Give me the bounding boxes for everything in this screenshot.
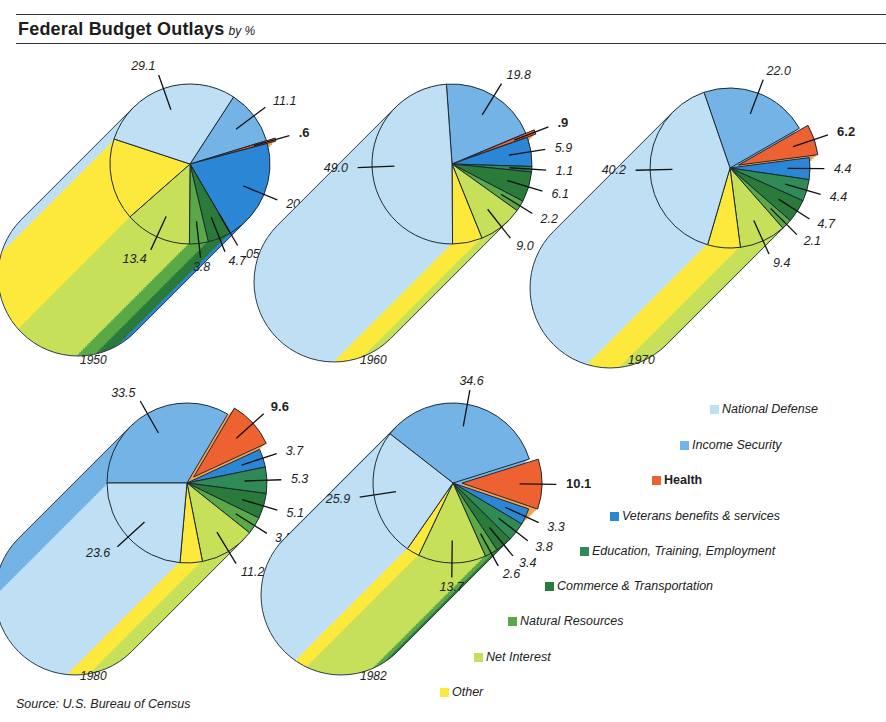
year-label: 1982: [360, 669, 387, 683]
value-label-income-security: 34.6: [459, 374, 483, 388]
legend-item-income-security: Income Security: [680, 438, 782, 452]
value-label-natural-resources: 2.2: [540, 212, 558, 226]
legend-item-health: Health: [652, 473, 702, 487]
legend-label: Commerce & Transportation: [557, 579, 713, 593]
legend-label: Natural Resources: [520, 614, 624, 628]
legend-label: Veterans benefits & services: [622, 509, 780, 523]
legend-label: Other: [452, 685, 483, 699]
legend-swatch: [440, 688, 449, 697]
value-label-national-defense: 40.2: [602, 163, 626, 177]
value-label-veterans-benefits-services: 5.9: [555, 141, 572, 155]
legend-item-net-interest: Net Interest: [474, 650, 551, 664]
pie-chart-1980: 33.59.63.75.35.13.511.223.61980: [0, 386, 308, 683]
value-label-natural-resources: 3.8: [193, 260, 210, 274]
value-label-net-interest: 9.4: [773, 256, 790, 270]
legend-item-national-defense: National Defense: [710, 402, 818, 416]
legend-swatch: [710, 405, 719, 414]
legend-swatch: [474, 653, 483, 662]
year-label: 1970: [628, 353, 655, 367]
year-label: 1980: [80, 669, 107, 683]
legend-swatch: [508, 617, 517, 626]
value-label-health: .6: [299, 125, 310, 140]
value-label-education-training-employment: 1.1: [556, 164, 573, 178]
pie-chart-1982: 34.610.13.33.83.42.613.725.91982: [261, 374, 591, 683]
value-label-net-interest: 13.4: [122, 252, 146, 266]
value-label-net-interest: 11.2: [241, 565, 264, 579]
legend-label: National Defense: [722, 402, 818, 416]
legend-label: Education, Training, Employment: [592, 544, 775, 558]
source-note: Source: U.S. Bureau of Census: [16, 697, 190, 711]
value-label-natural-resources: 2.1: [803, 234, 821, 248]
value-label-commerce-transportation: 6.1: [552, 187, 569, 201]
legend-item-natural-resources: Natural Resources: [508, 614, 624, 628]
value-label-national-defense: 25.9: [325, 492, 350, 506]
value-label-health: 6.2: [837, 124, 855, 139]
value-label-net-interest: 13.7: [439, 580, 464, 594]
pie-chart-1970: 22.06.24.44.44.72.19.440.21970: [530, 64, 855, 368]
legend-item-other: Other: [440, 685, 483, 699]
legend-item-veterans-benefits-services: Veterans benefits & services: [610, 509, 780, 523]
value-label-net-interest: 9.0: [516, 239, 533, 253]
value-label-veterans-benefits-services: 3.7: [286, 444, 304, 458]
value-label-national-defense: 49.0: [324, 161, 348, 175]
value-label-national-defense: 29.1: [130, 59, 155, 73]
value-label-health: 9.6: [271, 399, 289, 414]
value-label-natural-resources: 2.6: [502, 567, 520, 581]
legend-swatch: [545, 582, 554, 591]
legend-label: Net Interest: [486, 650, 551, 664]
pie-face: [110, 84, 276, 244]
value-label-education-training-employment: 5.3: [291, 472, 308, 486]
legend-item-commerce-transportation: Commerce & Transportation: [545, 579, 713, 593]
value-label-commerce-transportation: 4.7: [228, 254, 246, 268]
legend-label: Income Security: [692, 438, 782, 452]
value-label-income-security: 19.8: [507, 68, 531, 82]
pie-charts: 11.1.620.7.054.73.813.429.1195019.8.95.9…: [0, 0, 886, 722]
value-label-income-security: 33.5: [111, 386, 135, 400]
value-label-veterans-benefits-services: 4.4: [834, 162, 851, 176]
value-label-education-training-employment: 4.4: [830, 190, 847, 204]
value-label-income-security: 11.1: [273, 94, 296, 108]
pie-face: [107, 403, 267, 563]
legend-swatch: [680, 441, 689, 450]
value-label-commerce-transportation: 3.4: [519, 556, 536, 570]
pie-face: [372, 84, 536, 244]
legend-swatch: [610, 512, 619, 521]
legend-label: Health: [664, 473, 702, 487]
value-label-income-security: 22.0: [766, 64, 791, 78]
value-label-commerce-transportation: 4.7: [818, 217, 836, 231]
pie-chart-1960: 19.8.95.91.16.12.29.049.01960: [254, 68, 573, 367]
legend-swatch: [580, 547, 589, 556]
value-label-education-training-employment: 3.8: [535, 540, 552, 554]
value-label-veterans-benefits-services: 3.3: [547, 520, 564, 534]
value-label-national-defense: 23.6: [85, 546, 110, 560]
year-label: 1950: [80, 353, 107, 367]
year-label: 1960: [360, 353, 387, 367]
legend-swatch: [652, 476, 661, 485]
value-label-health: 10.1: [566, 476, 591, 491]
value-label-commerce-transportation: 5.1: [287, 506, 304, 520]
legend-item-education-training-employment: Education, Training, Employment: [580, 544, 775, 558]
value-label-health: .9: [557, 115, 568, 130]
